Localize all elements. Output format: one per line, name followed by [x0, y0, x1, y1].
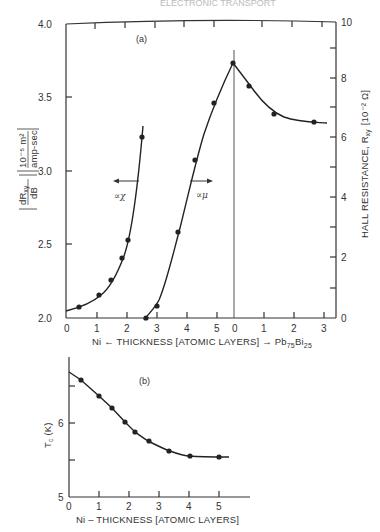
arrow-left-icon [113, 179, 119, 184]
b-xtick: 3 [156, 501, 162, 512]
b-xtick: 4 [186, 501, 192, 512]
b-ytick: 6 [58, 418, 64, 429]
ytick-left: 2.0 [38, 313, 52, 324]
y-axis-label-left: dRxy dB 10⁻⁵ m² amp-sec [17, 129, 39, 209]
ytick-right: 8 [341, 73, 347, 84]
panel-label-b: (b) [139, 376, 150, 386]
svg-text:10⁻⁵ m²: 10⁻⁵ m² [17, 133, 28, 168]
y-axis-label-right: HALL RESISTANCE, Rxy[10⁻² Ω] [359, 90, 372, 238]
svg-text:HALL RESISTANCE, Rxy[10⁻² Ω]: HALL RESISTANCE, Rxy[10⁻² Ω] [359, 90, 372, 238]
svg-text:dB: dB [28, 187, 39, 199]
svg-text:amp-sec: amp-sec [28, 130, 39, 168]
x-ticks-ni: 0 1 2 3 4 5 [64, 312, 220, 334]
right-y-ticks: 10 8 6 4 2 0 [330, 17, 353, 324]
chi-annotation: ∝χ [114, 191, 126, 201]
b-y-ticks: 6 5 [58, 386, 75, 503]
xtick-ni: 3 [154, 323, 160, 334]
left-y-ticks: 4.0 3.5 3.0 2.5 2.0 [38, 19, 72, 324]
ytick-left: 3.5 [38, 92, 52, 103]
ytick-left: 4.0 [38, 19, 52, 30]
page-header: ELECTRONIC TRANSPORT [160, 0, 276, 8]
x-ticks-pbbi: 0 1 2 3 [232, 312, 327, 334]
b-ytick: 5 [58, 492, 64, 503]
xtick-pbbi: 3 [321, 323, 327, 334]
ytick-left: 2.5 [38, 239, 52, 250]
arrow-right-icon [207, 179, 213, 184]
pbbi-curve [233, 63, 327, 123]
ytick-right: 2 [341, 252, 347, 263]
mu-curve [144, 63, 233, 320]
xtick-ni: 2 [124, 323, 130, 334]
xtick-pbbi: 0 [232, 323, 238, 334]
pbbi-points [246, 83, 316, 124]
ytick-right: 0 [341, 313, 347, 324]
xtick-ni: 0 [64, 323, 70, 334]
b-xtick: 1 [96, 501, 102, 512]
x-axis-label-a: Ni ← THICKNESS [ATOMIC LAYERS] → Pb75Bi2… [92, 336, 312, 349]
b-xtick: 5 [216, 501, 222, 512]
ytick-right: 4 [341, 192, 347, 203]
top-axis [66, 20, 336, 24]
ytick-left: 3.0 [38, 166, 52, 177]
xtick-pbbi: 1 [261, 323, 267, 334]
xtick-pbbi: 2 [291, 323, 297, 334]
ytick-right: 10 [341, 17, 353, 28]
tc-points [78, 377, 221, 459]
xtick-ni: 1 [94, 323, 100, 334]
x-axis-label-b: Ni – THICKNESS [ATOMIC LAYERS] [76, 514, 239, 525]
y-axis-label-b: Tc(K) [42, 422, 54, 448]
panel-label-a: (a) [136, 34, 147, 44]
b-xtick: 2 [126, 501, 132, 512]
svg-text:Tc(K): Tc(K) [42, 422, 54, 448]
figure: ELECTRONIC TRANSPORT 4.0 3.5 3.0 2.5 2.0 [0, 0, 380, 532]
xtick-ni: 5 [214, 323, 220, 334]
xtick-ni: 4 [184, 323, 190, 334]
b-x-ticks: 0 1 2 3 4 5 [66, 491, 222, 512]
chart-b: 6 5 0 1 2 3 4 5 (b) [42, 357, 250, 525]
ytick-right: 6 [341, 132, 347, 143]
chi-curve [66, 126, 143, 311]
chart-a: 4.0 3.5 3.0 2.5 2.0 10 8 6 4 2 0 [17, 17, 372, 349]
b-xtick: 0 [66, 501, 72, 512]
mu-annotation: ∝μ [196, 190, 208, 200]
